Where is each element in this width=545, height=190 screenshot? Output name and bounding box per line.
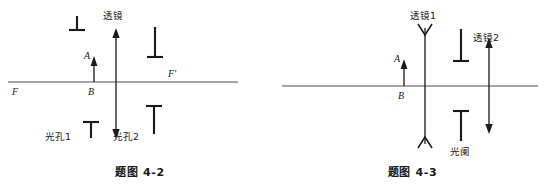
figure-caption-4-2: 题图 4-2 (0, 163, 280, 179)
label-stop: 光阑 (450, 146, 470, 157)
label-focus-left: F (11, 86, 19, 97)
optical-diagram-4-2: F F' A B 透镜 光孔1 光孔2 (0, 0, 280, 160)
label-object-base: B (88, 86, 94, 97)
stop-2-glyph (146, 106, 162, 134)
object-arrow-ab (91, 56, 98, 82)
figure-panel-4-3: 透镜1 透镜2 A B 光阑 题图 4-3 (280, 0, 545, 190)
label-object-tip: A (83, 50, 91, 61)
figure-sheet: F F' A B 透镜 光孔1 光孔2 题图 4-2 (0, 0, 545, 190)
label-lens-1: 透镜1 (410, 10, 436, 21)
figure-caption-4-3: 题图 4-3 (280, 163, 545, 179)
object-arrow-ab (401, 59, 408, 86)
label-stop-1: 光孔1 (45, 131, 71, 142)
mark-perp-upper-right (147, 27, 163, 57)
label-lens: 透镜 (103, 10, 123, 21)
stop-glyph (453, 111, 469, 141)
label-stop-2: 光孔2 (113, 131, 139, 142)
mark-perp-upper (453, 29, 469, 61)
label-lens-2: 透镜2 (473, 32, 499, 43)
lens-double-arrow (112, 28, 119, 139)
label-focus-right: F' (167, 68, 177, 79)
stop-1-glyph (83, 122, 99, 138)
mark-perp-upper-left (69, 16, 85, 30)
label-object-tip: A (393, 53, 401, 64)
label-object-base: B (398, 90, 404, 101)
figure-panel-4-2: F F' A B 透镜 光孔1 光孔2 题图 4-2 (0, 0, 280, 190)
optical-diagram-4-3: 透镜1 透镜2 A B 光阑 (280, 0, 545, 160)
